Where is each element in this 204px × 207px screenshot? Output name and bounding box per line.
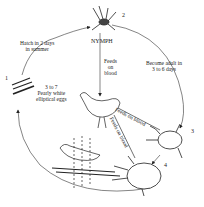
eggs-label: 3 to 7 Pearly white elliptical eggs: [36, 84, 67, 102]
stage-number-3: 3: [191, 128, 194, 134]
stage-number-4: 4: [164, 162, 167, 168]
hatch-label: Hatch in 2 days in summer: [20, 40, 54, 52]
nymph-feeds-label: Feeds on blood: [104, 58, 117, 76]
nymph-tick-icon: [92, 6, 116, 30]
eggs-illustration: [12, 78, 34, 94]
nymph-label: NYMPH: [91, 38, 113, 44]
adult-tick-icon: [146, 124, 182, 158]
arrow-adult-to-engorged: [152, 155, 160, 164]
bird-icon: [52, 136, 120, 188]
life-cycle-drawing: [0, 0, 204, 207]
become-adult-label: Become adult in 3 to 6 days: [146, 60, 182, 72]
stage-number-1: 1: [5, 75, 8, 81]
stage-number-2: 2: [122, 12, 125, 18]
